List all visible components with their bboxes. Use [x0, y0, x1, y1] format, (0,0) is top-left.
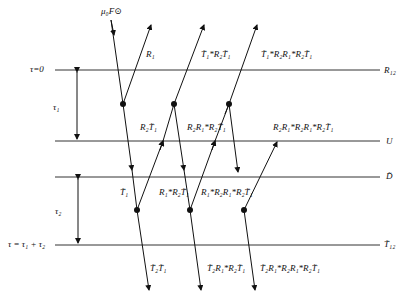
layer2-label-2: R₁*R₂T̃₁ — [159, 188, 189, 197]
incident-flux-label: μ₀F⊙ — [101, 7, 122, 16]
layer1-label-2: R₂R₁*R₂T̃₁ — [187, 123, 226, 132]
scatter-point — [187, 207, 193, 213]
layer1-label-1: R₂T̃₁ — [140, 123, 157, 132]
upward-label-2: T̃₁*R₂T̃₁ — [201, 50, 230, 59]
downward-label-3: T̃₂R₁*R₂R₁*R₂T̃₁ — [260, 264, 320, 273]
upward-label-1: R₁ — [146, 50, 155, 59]
r12-label: R₁₂ — [384, 66, 396, 75]
downward-label-2: T̃₂R₁*R₂T̃₁ — [207, 264, 245, 273]
u-label: U — [386, 137, 393, 146]
tau2-label: τ₂ — [55, 207, 61, 216]
scatter-point — [241, 207, 247, 213]
t12-label: T̃₁₂ — [384, 240, 395, 249]
d-label: D̃ — [386, 172, 393, 181]
layer1-label-3: R₂R₁*R₂R₁*R₂T̃₁ — [273, 123, 333, 132]
diagram-canvas: μ₀F⊙ τ=0 τ₁ τ₂ τ = τ₁ + τ₂ R₁₂ U D̃ T̃₁₂… — [0, 0, 401, 300]
scatter-point — [171, 101, 177, 107]
downward-label-1: T̃₂T̃₁ — [150, 264, 166, 273]
tau1-label: τ₁ — [53, 103, 59, 112]
layer2-label-1: T̃₁ — [120, 188, 128, 197]
tau-zero-label: τ=0 — [30, 65, 44, 74]
scatter-point — [134, 207, 140, 213]
scatter-point — [226, 101, 232, 107]
scatter-point — [120, 101, 126, 107]
diagram-lines — [0, 0, 401, 300]
tau-total-label: τ = τ₁ + τ₂ — [8, 240, 45, 249]
upward-label-3: T̃₁*R₂R₁*R₂T̃₁ — [261, 50, 312, 59]
layer2-label-3: R₁*R₂R₁*R₂T̃₁ — [201, 188, 253, 197]
